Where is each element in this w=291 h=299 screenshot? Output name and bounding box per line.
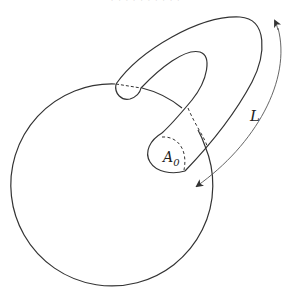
- handle-hidden-intersection-dashed: [188, 108, 207, 146]
- sphere-with-handle-diagram: [0, 0, 291, 299]
- area-label-base: A: [163, 149, 173, 165]
- sphere-outline-upper-right: [142, 88, 182, 108]
- length-arrow: [197, 28, 281, 186]
- handle-base-dashed-edge: [116, 84, 141, 88]
- length-arrow-top-head: [275, 21, 278, 30]
- length-label: L: [250, 107, 260, 125]
- area-label: A0: [163, 149, 180, 168]
- handle-inner-edge: [141, 51, 207, 133]
- sphere-outline: [11, 84, 213, 286]
- area-label-subscript: 0: [173, 157, 179, 168]
